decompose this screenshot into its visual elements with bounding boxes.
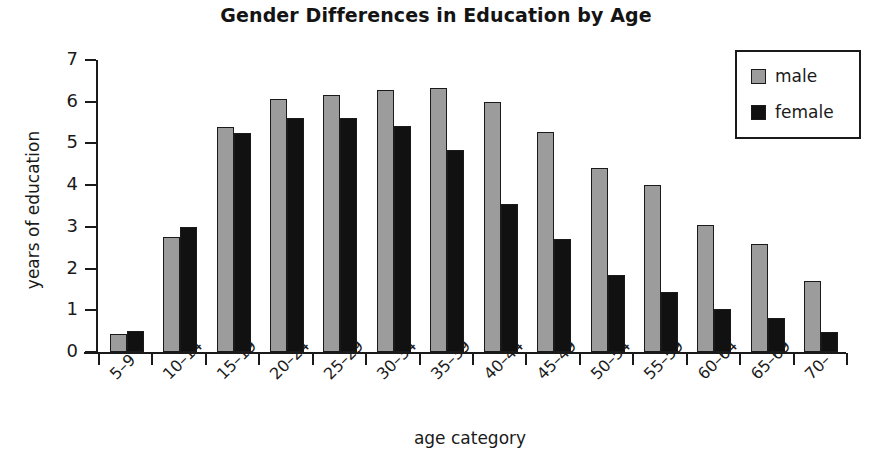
x-tick-10	[632, 353, 634, 365]
y-tick-2	[85, 268, 96, 270]
bar-female-10	[661, 292, 678, 352]
legend-item-male[interactable]: male	[751, 68, 817, 85]
bar-female-0	[127, 331, 144, 352]
y-tick-4	[85, 184, 96, 186]
bar-male-9	[591, 168, 608, 352]
x-tick-5	[365, 353, 367, 365]
y-tick-label-6: 6	[50, 92, 78, 110]
x-tick-3	[258, 353, 260, 365]
x-tick-label-0: 5–9	[106, 350, 139, 383]
bar-male-11	[697, 225, 714, 352]
bar-female-13	[821, 332, 838, 352]
x-tick-1	[151, 353, 153, 365]
y-tick-0	[85, 351, 96, 353]
chart-container: Gender Differences in Education by Age y…	[0, 0, 872, 463]
x-tick-4	[312, 353, 314, 365]
x-tick-12	[739, 353, 741, 365]
bar-male-4	[323, 95, 340, 352]
legend-label-male: male	[775, 68, 817, 85]
chart-legend: malefemale	[735, 50, 861, 139]
y-axis-line	[96, 60, 98, 353]
bar-male-6	[430, 88, 447, 352]
bar-male-7	[484, 102, 501, 352]
y-tick-label-4: 4	[50, 175, 78, 193]
bar-male-5	[377, 90, 394, 352]
x-tick-11	[686, 353, 688, 365]
legend-label-female: female	[775, 104, 834, 121]
plot-area: 01234567 5–910–1415–1920–2425–2930–3435–…	[96, 60, 844, 352]
bar-female-1	[180, 227, 197, 352]
y-axis-label: years of education	[23, 85, 43, 335]
bar-male-0	[110, 334, 127, 352]
y-tick-label-1: 1	[50, 300, 78, 318]
bar-male-8	[537, 132, 554, 352]
bar-male-12	[751, 244, 768, 352]
y-tick-7	[85, 59, 96, 61]
x-tick-7	[472, 353, 474, 365]
y-tick-label-0: 0	[50, 342, 78, 360]
bar-female-12	[768, 318, 785, 352]
x-tick-8	[525, 353, 527, 365]
y-tick-3	[85, 226, 96, 228]
legend-item-female[interactable]: female	[751, 104, 834, 121]
bar-male-2	[217, 127, 234, 352]
x-tick-end	[846, 353, 848, 365]
x-axis-label: age category	[95, 428, 845, 448]
y-tick-label-2: 2	[50, 259, 78, 277]
bar-female-7	[501, 204, 518, 352]
bar-female-5	[394, 126, 411, 352]
bar-female-4	[340, 118, 357, 352]
y-tick-label-3: 3	[50, 217, 78, 235]
y-tick-label-5: 5	[50, 133, 78, 151]
y-tick-6	[85, 101, 96, 103]
x-tick-2	[205, 353, 207, 365]
bar-female-2	[234, 133, 251, 352]
x-tick-0	[98, 353, 100, 365]
x-tick-label-13: 70–	[801, 350, 834, 383]
y-tick-5	[85, 142, 96, 144]
bar-female-8	[554, 239, 571, 352]
bar-female-11	[714, 309, 731, 352]
legend-swatch-female-icon	[751, 105, 766, 120]
bar-female-6	[447, 150, 464, 352]
x-tick-6	[419, 353, 421, 365]
bar-male-13	[804, 281, 821, 352]
y-tick-1	[85, 309, 96, 311]
x-tick-13	[793, 353, 795, 365]
bar-male-1	[163, 237, 180, 352]
legend-swatch-male-icon	[751, 69, 766, 84]
bar-female-3	[287, 118, 304, 352]
chart-title: Gender Differences in Education by Age	[0, 4, 872, 26]
bar-male-3	[270, 99, 287, 352]
bar-female-9	[608, 275, 625, 352]
x-tick-9	[579, 353, 581, 365]
bar-male-10	[644, 185, 661, 352]
y-tick-label-7: 7	[50, 50, 78, 68]
